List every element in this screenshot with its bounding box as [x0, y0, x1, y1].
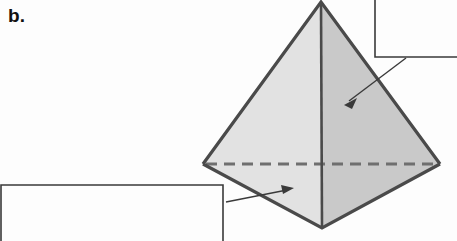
callout-box-top-right	[375, 0, 457, 57]
callout-box-bottom-left	[1, 185, 223, 241]
tetrahedron-right-face	[321, 2, 440, 228]
figure-panel: #face-left { fill: #e2e2e2; stroke: none…	[0, 0, 457, 241]
tetrahedron-left-face	[203, 2, 322, 228]
tetrahedron-center-edge	[321, 2, 322, 228]
tetrahedron-diagram: #face-left { fill: #e2e2e2; stroke: none…	[0, 0, 457, 241]
panel-label: b.	[8, 6, 25, 25]
